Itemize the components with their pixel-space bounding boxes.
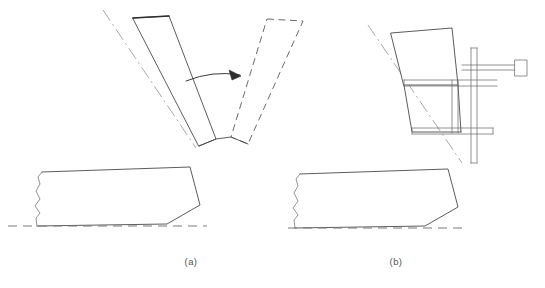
rod-end-block — [515, 60, 527, 76]
diagram-background — [0, 0, 545, 288]
figure-root: (a) — [0, 0, 545, 288]
caption-a: (a) — [185, 256, 198, 267]
technical-diagram: (a) — [0, 0, 545, 288]
caption-b: (b) — [390, 256, 403, 267]
